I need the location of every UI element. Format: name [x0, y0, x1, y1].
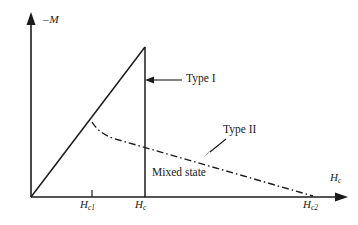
annotation-mixed-state: Mixed state [152, 167, 206, 179]
x-axis-symbol: H [330, 171, 338, 183]
annotation-type-i: Type I [186, 73, 216, 85]
y-axis-label: – M [43, 14, 59, 25]
tick-label-hc2: Hc2 [303, 199, 318, 211]
annotation-type-ii: Type II [223, 124, 256, 136]
type-ii-mixed-state-curve [92, 122, 313, 196]
y-axis-arrowhead [27, 12, 36, 25]
tick-label-hc2-symbol: H [303, 198, 311, 210]
type-i-meissner-line [31, 47, 145, 197]
tick-label-hc1-symbol: H [80, 198, 88, 210]
tick-label-hc2-subscript: c2 [311, 203, 318, 212]
y-axis-symbol: M [49, 13, 58, 25]
x-axis-arrowhead [335, 193, 348, 202]
tick-label-hc-subscript: c [143, 203, 146, 212]
type-i-pointer-arrowhead [145, 77, 154, 84]
diagram-canvas [0, 0, 358, 225]
tick-label-hc1-subscript: c1 [88, 203, 95, 212]
type-ii-pointer-line [210, 139, 226, 152]
x-axis-subscript: c [338, 176, 341, 185]
y-axis-minus-sign: – [43, 13, 49, 25]
x-axis-label: Hc [330, 172, 341, 184]
tick-label-hc1: Hc1 [80, 199, 95, 211]
tick-label-hc-symbol: H [135, 198, 143, 210]
tick-label-hc: Hc [135, 199, 146, 211]
type-ii-pointer-arrowhead [203, 149, 212, 158]
superconductor-magnetization-diagram: – M Hc Type I Type II Mixed state Hc1 Hc… [0, 0, 358, 225]
